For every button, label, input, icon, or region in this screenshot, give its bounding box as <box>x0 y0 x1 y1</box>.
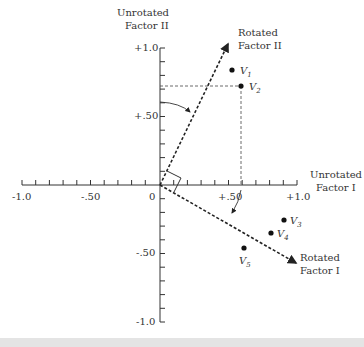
y-axis-label: Unrotated <box>117 7 170 18</box>
x-tick-label: -1.0 <box>12 191 31 202</box>
y-axis: +1.0 +.50 -.50 -1.0 Unrotated Factor II <box>117 7 170 327</box>
x-axis: -1.0 -.50 0 +.50 +1.0 Unrotated Factor I <box>12 169 363 202</box>
x-tick-label: -.50 <box>81 191 100 202</box>
point-label-v5: V5 <box>239 255 251 269</box>
bottom-strip <box>0 338 364 347</box>
data-points: V1 V2 V3 V4 V5 <box>229 65 302 269</box>
x-axis-label: Unrotated <box>310 169 363 180</box>
point-label-v1: V1 <box>240 65 252 79</box>
rotated-factor-2-label: Factor II <box>238 40 282 51</box>
x-axis-label: Factor I <box>316 182 356 193</box>
factor-rotation-chart: -1.0 -.50 0 +.50 +1.0 Unrotated Factor I… <box>0 0 364 347</box>
rotated-axes: Rotated Factor II Rotated Factor I <box>160 27 340 276</box>
point-label-v4: V4 <box>277 228 289 242</box>
y-tick-label: +1.0 <box>134 42 158 53</box>
rotated-factor-1-label: Rotated <box>300 252 340 263</box>
y-tick-label: -1.0 <box>136 316 155 327</box>
y-axis-label: Factor II <box>125 20 169 31</box>
rotated-factor-1-label: Factor I <box>300 265 340 276</box>
point-label-v2: V2 <box>249 81 261 95</box>
y-tick-label: -.50 <box>136 247 155 258</box>
x-tick-label: +1.0 <box>286 191 310 202</box>
point-label-v3: V3 <box>290 215 302 229</box>
y-tick-label: +.50 <box>134 110 158 121</box>
rotated-factor-2-label: Rotated <box>238 27 278 38</box>
x-tick-label: 0 <box>149 191 155 202</box>
projection-lines <box>160 86 241 185</box>
